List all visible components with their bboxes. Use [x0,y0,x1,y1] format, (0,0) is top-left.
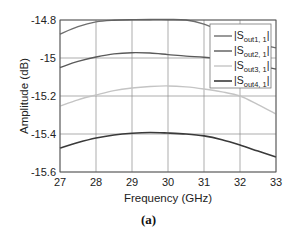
x-tick-label: 28 [90,176,102,188]
y-tick-label: -15.6 [31,166,56,178]
legend: |Sout1, 1||Sout2, 1||Sout3, 1||Sout4, 1| [210,24,271,89]
line-chart: 27282930313233 -14.8-15-15.2-15.4-15.6 F… [0,0,297,237]
x-tick-label: 29 [126,176,138,188]
x-tick-label: 32 [234,176,246,188]
y-tick-label: -15 [40,52,56,64]
x-axis-ticks: 27282930313233 [54,176,282,188]
y-axis-ticks: -14.8-15-15.2-15.4-15.6 [31,14,56,178]
x-tick-label: 30 [162,176,174,188]
y-tick-label: -14.8 [31,14,56,26]
x-axis-label: Frequency (GHz) [124,192,212,204]
y-axis-label: Amplitude (dB) [18,58,30,134]
x-tick-label: 31 [198,176,210,188]
figure-caption: (a) [0,212,297,228]
y-tick-label: -15.2 [31,90,56,102]
y-tick-label: -15.4 [31,128,56,140]
x-tick-label: 33 [270,176,282,188]
